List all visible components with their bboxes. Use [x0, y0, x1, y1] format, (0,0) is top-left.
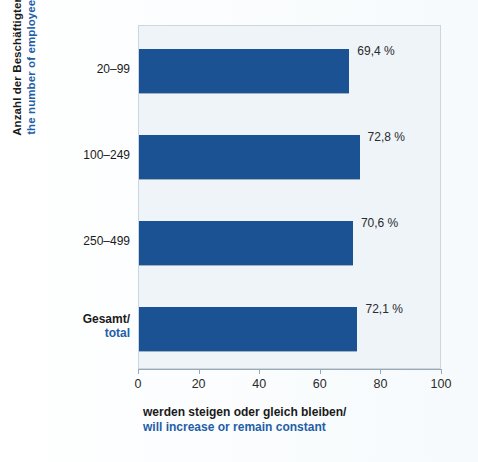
x-axis-tick — [259, 369, 260, 374]
x-axis-tick-label: 60 — [313, 377, 327, 391]
category-label: 20–99 — [0, 62, 130, 76]
plot-area — [138, 25, 441, 369]
x-axis-caption-english: will increase or remain constant — [143, 420, 463, 435]
bar-value-label: 70,6 % — [361, 216, 398, 230]
category-label-german: 250–499 — [0, 234, 130, 248]
x-axis-tick-label: 20 — [192, 377, 206, 391]
category-label: 250–499 — [0, 234, 130, 248]
bar-chart-figure: Anzahl der Beschäftigten/ the number of … — [0, 0, 478, 462]
x-axis-tick-label: 80 — [373, 377, 387, 391]
bar — [139, 135, 360, 179]
x-axis-caption: werden steigen oder gleich bleiben/ will… — [143, 405, 463, 435]
x-axis-tick-label: 40 — [252, 377, 266, 391]
bar — [139, 49, 349, 93]
x-axis-tick — [441, 369, 442, 374]
x-axis-tick-label: 100 — [431, 377, 452, 391]
x-axis-caption-german: werden steigen oder gleich bleiben/ — [143, 405, 463, 420]
category-label: 100–249 — [0, 148, 130, 162]
category-label-german: 100–249 — [0, 148, 130, 162]
x-axis-tick — [380, 369, 381, 374]
x-axis-tick — [138, 369, 139, 374]
x-axis-tick — [199, 369, 200, 374]
bar-value-label: 72,1 % — [365, 302, 402, 316]
x-axis-tick — [320, 369, 321, 374]
category-label-german: Gesamt/ — [0, 312, 130, 326]
bar — [139, 307, 357, 351]
category-label-english: total — [0, 326, 130, 340]
bar — [139, 221, 353, 265]
category-label: Gesamt/total — [0, 312, 130, 340]
x-axis-tick-label: 0 — [135, 377, 142, 391]
category-label-german: 20–99 — [0, 62, 130, 76]
y-axis-title: Anzahl der Beschäftigten/ the number of … — [2, 0, 46, 164]
bar-value-label: 69,4 % — [357, 44, 394, 58]
bar-value-label: 72,8 % — [368, 130, 405, 144]
bars-layer — [139, 26, 440, 368]
x-axis-line — [138, 369, 441, 370]
